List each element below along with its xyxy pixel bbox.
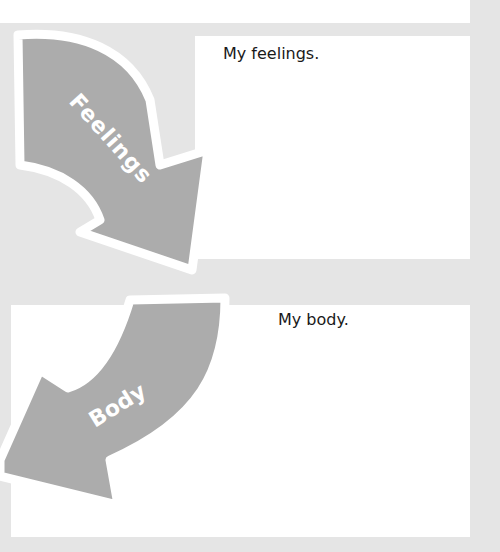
body-arrow-icon: Body — [0, 298, 225, 505]
arrows-layer: Feelings Body — [0, 0, 500, 552]
feelings-arrow-icon: Feelings — [18, 34, 208, 270]
